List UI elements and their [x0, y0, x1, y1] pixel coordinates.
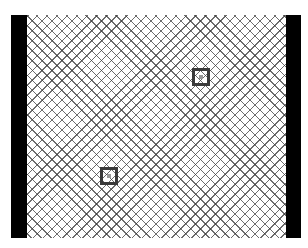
left-wall: [11, 15, 27, 238]
play-field[interactable]: [11, 15, 301, 238]
square-target-icon[interactable]: [100, 167, 118, 185]
square-target-icon[interactable]: [192, 68, 210, 86]
target-center: [199, 75, 203, 79]
right-wall: [286, 15, 301, 238]
target-center: [107, 174, 111, 178]
